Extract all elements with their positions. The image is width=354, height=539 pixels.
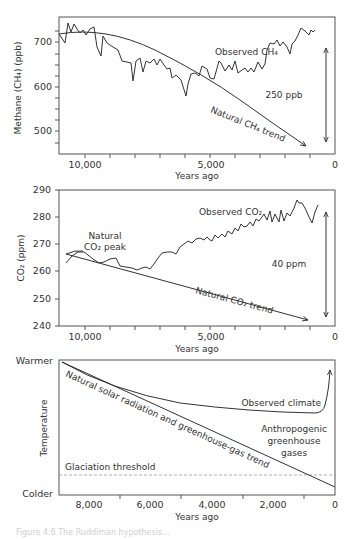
- y-axis-title: Temperature: [39, 399, 49, 457]
- x-tick-10000: 10,000: [68, 331, 101, 342]
- x-axis-ticks: [85, 154, 310, 158]
- y-label-colder: Colder: [22, 488, 53, 499]
- observed-ch4-line: [59, 23, 315, 96]
- co2-peak-label-1: Natural: [88, 231, 121, 241]
- y-label-warmer: Warmer: [16, 355, 53, 366]
- co2-chart: 290 280 270 260 250 240 CO₂ (ppm) 10,000…: [16, 184, 338, 354]
- y-tick-280: 280: [33, 211, 51, 222]
- x-tick-0: 0: [332, 499, 338, 510]
- y-axis-ticks: [55, 31, 59, 143]
- ch4-delta-label: 250 ppb: [265, 90, 302, 100]
- y-axis-title: Methane (CH₄) (ppb): [13, 42, 23, 135]
- anthropogenic-label-2: greenhouse: [267, 436, 321, 446]
- methane-chart: 700 600 500 Methane (CH₄) (ppb) 10,000 5…: [13, 17, 338, 181]
- x-tick-10000: 10,000: [68, 159, 101, 170]
- y-tick-290: 290: [33, 184, 51, 195]
- plot-frame: [59, 17, 335, 154]
- observed-ch4-label: Observed CH₄: [215, 47, 278, 57]
- x-axis-title: Years ago: [174, 512, 219, 522]
- x-axis-title: Years ago: [174, 344, 219, 354]
- co2-peak-label-2: CO₂ peak: [84, 242, 127, 252]
- observed-co2-label: Observed CO₂: [199, 207, 263, 217]
- natural-co2-trend-label: Natural CO₂ trend: [194, 285, 274, 315]
- plot-frame: [59, 190, 335, 326]
- x-tick-6000: 6,000: [136, 499, 163, 510]
- figure-caption: Figure 4.6 The Ruddiman hypothesis...: [16, 528, 170, 537]
- x-axis-ticks: [85, 326, 310, 330]
- y-axis-title: CO₂ (ppm): [16, 234, 26, 281]
- y-axis-ticks: [55, 190, 59, 326]
- temperature-chart: Warmer Colder Temperature 8,000 6,000 4,…: [16, 355, 338, 522]
- x-tick-0: 0: [332, 331, 338, 342]
- x-tick-5000: 5,000: [197, 159, 224, 170]
- y-tick-270: 270: [33, 238, 51, 249]
- x-tick-5000: 5,000: [197, 331, 224, 342]
- glaciation-threshold-label: Glaciation threshold: [65, 462, 155, 472]
- x-tick-2000: 2,000: [259, 499, 286, 510]
- y-tick-500: 500: [34, 125, 52, 136]
- x-tick-0: 0: [332, 159, 338, 170]
- natural-ch4-trend-label: Natural CH₄ trend: [209, 105, 287, 144]
- y-tick-260: 260: [33, 265, 51, 276]
- y-tick-240: 240: [33, 320, 51, 331]
- x-axis-title: Years ago: [174, 171, 219, 181]
- co2-delta-label: 40 ppm: [272, 259, 307, 269]
- y-tick-250: 250: [33, 293, 51, 304]
- observed-climate-label: Observed climate: [242, 398, 322, 408]
- natural-trend-label: Natural solar radiation and greenhouse-g…: [64, 369, 271, 470]
- figure: 700 600 500 Methane (CH₄) (ppb) 10,000 5…: [0, 0, 354, 539]
- y-tick-700: 700: [34, 36, 52, 47]
- x-tick-4000: 4,000: [198, 499, 225, 510]
- anthropogenic-label-3: gases: [281, 448, 307, 458]
- x-tick-8000: 8,000: [75, 499, 102, 510]
- anthropogenic-label-1: Anthropogenic: [261, 424, 327, 434]
- y-tick-600: 600: [34, 81, 52, 92]
